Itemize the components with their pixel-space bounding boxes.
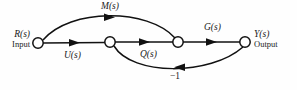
node-mid [173, 37, 183, 47]
arrowhead-feedback [174, 63, 185, 71]
node-input [33, 38, 43, 48]
arrowhead-mid [139, 38, 150, 46]
node-output [240, 37, 250, 47]
output-terminal-label: Y(s) Output [254, 30, 297, 49]
arrowhead-g [206, 38, 217, 46]
arrowhead-m [104, 14, 115, 22]
node-u [105, 37, 115, 47]
input-role-label: Input [0, 40, 30, 49]
signal-flow-graph-figure: R(s) Input Y(s) Output M(s) U(s) Q(s) G(… [0, 0, 297, 90]
edge-label-q: Q(s) [140, 50, 157, 60]
signal-flow-graph-canvas [0, 0, 297, 90]
arrowhead-u [69, 39, 80, 47]
edge-path-q-feedback [114, 46, 243, 69]
edge-label-m: M(s) [101, 2, 119, 12]
edge-label-g: G(s) [204, 23, 221, 33]
output-role-label: Output [254, 40, 297, 49]
edge-label-feedback: −1 [170, 72, 180, 82]
edge-label-u: U(s) [64, 51, 81, 61]
input-terminal-label: R(s) Input [0, 30, 30, 49]
